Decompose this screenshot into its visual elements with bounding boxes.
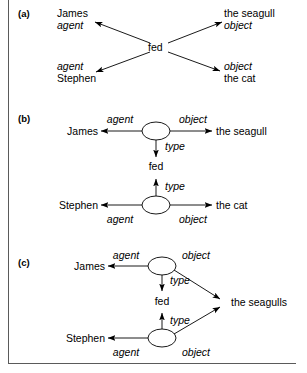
panel-b-edge-label-agent-stephen: agent (107, 213, 133, 225)
panel-b-tag: (b) (18, 113, 30, 125)
panel-b-node-james: James (67, 125, 98, 137)
diagram-line-layer (0, 0, 307, 373)
panel-a-edge-label-object-seagull: object (224, 19, 252, 31)
figure-border-bottom (8, 363, 296, 364)
panel-a-node-fed: fed (148, 41, 163, 53)
panel-b-node-seagull: the seagull (216, 125, 267, 137)
panel-c-edge-label-agent-james: agent (113, 249, 139, 261)
panel-b-edge-label-agent-james: agent (107, 113, 133, 125)
panel-b-edge-label-object-cat: object (179, 213, 207, 225)
panel-a-node-cat: the cat (224, 72, 256, 84)
panel-c-tag: (c) (18, 257, 30, 269)
panel-c-edge-label-object-upper: object (182, 249, 210, 261)
panel-c-node-seagulls: the seagulls (231, 296, 287, 308)
panel-a-tag: (a) (18, 8, 30, 20)
panel-c-edge-label-type-upper: type (170, 274, 190, 286)
panel-a-node-stephen: Stephen (57, 72, 96, 84)
panel-b-node-cat: the cat (216, 199, 248, 211)
panel-a-edge-label-agent-stephen: agent (57, 60, 83, 72)
figure-border-left (8, 0, 9, 364)
panel-a-edge-label-agent-james: agent (57, 19, 83, 31)
panel-c-node-fed: fed (155, 295, 170, 307)
panel-b-edge-label-object-seagull: object (179, 113, 207, 125)
panel-c-edge-label-type-lower: type (170, 314, 190, 326)
panel-c-edge-label-agent-stephen: agent (113, 346, 139, 358)
panel-a-node-seagull: the seagull (224, 7, 275, 19)
panel-a-node-james: James (57, 7, 88, 19)
panel-a-edge-label-object-cat: object (224, 60, 252, 72)
panel-c-node-james: James (74, 260, 105, 272)
panel-b-edge-label-type-lower: type (165, 180, 185, 192)
figure-panel-container: (a) James agent the seagull object fed a… (0, 0, 307, 373)
panel-b-node-fed: fed (149, 160, 164, 172)
panel-c-edge-label-object-lower: object (182, 346, 210, 358)
panel-b-node-stephen: Stephen (59, 199, 98, 211)
panel-b-edge-label-type-upper: type (165, 140, 185, 152)
panel-c-node-stephen: Stephen (66, 332, 105, 344)
